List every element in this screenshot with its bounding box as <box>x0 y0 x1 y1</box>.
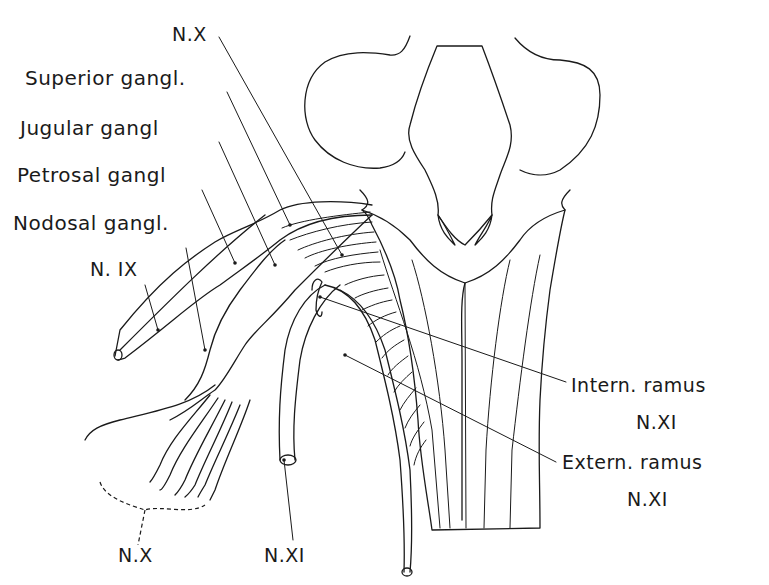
leader-lines <box>145 37 566 540</box>
label-superior-gangl: Superior gangl. <box>25 68 186 88</box>
label-petrosal-gangl: Petrosal gangl <box>17 165 166 185</box>
brainstem-right <box>465 190 570 283</box>
label-n-ix: N. IX <box>90 260 137 279</box>
label-nx-bottom: N.X <box>118 546 153 565</box>
label-nx-top: N.X <box>172 25 207 44</box>
label-extern-ramus-nerve: N.XI <box>627 490 668 509</box>
nx-bracket <box>100 482 205 545</box>
label-jugular-gangl: Jugular gangl <box>20 118 159 138</box>
right-lobe <box>515 38 600 175</box>
central-lobe <box>409 46 512 245</box>
ganglia-lower <box>170 215 372 420</box>
label-intern-ramus: Intern. ramus <box>571 376 706 395</box>
label-nodosal-gangl: Nodosal gangl. <box>13 213 169 233</box>
label-extern-ramus: Extern. ramus <box>562 453 702 472</box>
label-intern-ramus-nerve: N.XI <box>636 413 677 432</box>
label-nxi-bottom: N.XI <box>264 546 305 565</box>
left-lobe <box>305 36 410 168</box>
vagus-fibers <box>85 385 250 500</box>
rootlets <box>282 212 426 465</box>
